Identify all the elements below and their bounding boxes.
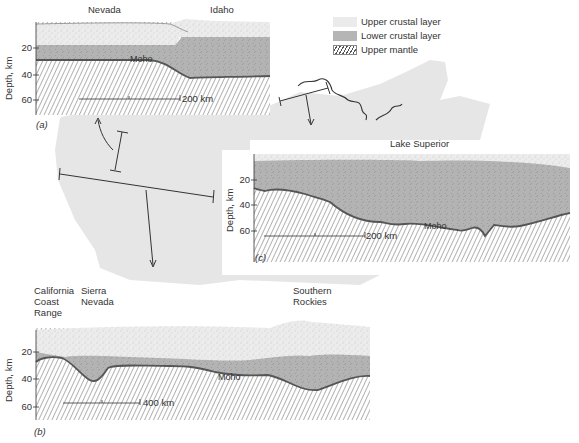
- panel-a-tick-20: 20: [14, 42, 32, 53]
- panel-c-moho-label: Moho: [424, 221, 447, 231]
- panel-b-tick-40: 40: [14, 373, 32, 384]
- panel-c-section: [251, 154, 570, 262]
- panel-a-region-idaho: Idaho: [210, 4, 234, 15]
- panel-a-tick-60: 60: [14, 94, 32, 105]
- panel-b-caption: (b): [34, 426, 46, 437]
- panel-a-scale-bar-label: 200 km: [182, 93, 213, 104]
- panel-c-caption: (c): [255, 252, 266, 263]
- panel-a-region-nevada: Nevada: [88, 4, 121, 15]
- figure-graphics: [0, 0, 579, 443]
- panel-a-moho-label: Moho: [130, 54, 153, 64]
- upper-mantle-swatch-icon: [333, 45, 357, 55]
- upper-crust-swatch-icon: [333, 17, 357, 27]
- panel-a-y-axis-label: Depth, km: [3, 57, 14, 100]
- lower-crust-swatch-icon: [333, 31, 357, 41]
- panel-c-tick-40: 40: [232, 199, 250, 210]
- panel-b-scale-bar-label: 400 km: [143, 397, 174, 408]
- legend-item-upper-crust: Upper crustal layer: [333, 15, 441, 28]
- panel-b-region-sierra-nevada: Sierra Nevada: [81, 285, 114, 307]
- panel-a-tick-40: 40: [14, 69, 32, 80]
- panel-b-region-california-coast-range: California Coast Range: [34, 285, 74, 318]
- panel-b-tick-60: 60: [14, 401, 32, 412]
- panel-b-moho-label: Moho: [218, 372, 241, 382]
- panel-c-tick-60: 60: [232, 225, 250, 236]
- panel-c-tick-20: 20: [232, 174, 250, 185]
- panel-a-section: [33, 19, 270, 115]
- legend: Upper crustal layer Lower crustal layer …: [333, 15, 441, 57]
- legend-item-lower-crust: Lower crustal layer: [333, 29, 441, 42]
- panel-c-scale-bar-label: 200 km: [366, 230, 397, 241]
- panel-b-region-southern-rockies: Southern Rockies: [293, 285, 332, 307]
- panel-b-section: [33, 320, 370, 420]
- panel-a-caption: (a): [36, 119, 48, 130]
- legend-item-upper-mantle: Upper mantle: [333, 43, 441, 56]
- panel-c-title: Lake Superior: [390, 138, 449, 149]
- panel-b-y-axis-label: Depth, km: [3, 359, 14, 402]
- panel-b-tick-20: 20: [14, 346, 32, 357]
